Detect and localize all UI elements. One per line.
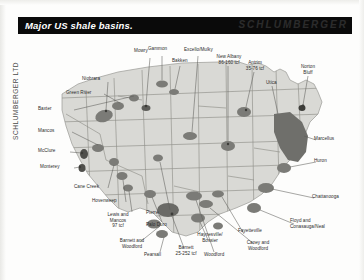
- basin-label-excello-mulky: Excello/Mulky: [184, 47, 213, 53]
- page-title: Major US shale basins.: [25, 20, 133, 31]
- basin-label-hovenweep: Hovenweep: [92, 198, 117, 204]
- basin-label-chattanooga: Chattanooga: [312, 194, 339, 200]
- basin-label-bakken: Bakken: [172, 58, 188, 64]
- us-shale-basin-map: Mowry Gammon Bakken Excello/Mulky New Al…: [22, 36, 352, 274]
- basin-label-norton-bluff: Norton Bluff: [294, 64, 322, 75]
- basin-label-mancos: Mancos: [38, 128, 54, 134]
- basin-label-mcclure: McClure: [38, 148, 55, 154]
- basin-label-antrim: Antrim 35-76 tcf: [238, 60, 272, 71]
- page-edge-left: [0, 0, 6, 280]
- basin-label-marcellus: Marcellus: [314, 136, 334, 142]
- basin-label-lewis-and-mancos: Lewis and Mancos 97 tcf: [100, 212, 136, 229]
- basin-label-baxter: Baxter: [38, 106, 52, 112]
- basin-label-utica: Utica: [266, 80, 277, 86]
- basin-label-fayetteville: Fayetteville: [238, 228, 262, 234]
- basin-label-green-river: Green River: [66, 90, 91, 96]
- basin-label-monterey: Monterey: [40, 164, 60, 170]
- page-edge-top: [0, 0, 364, 5]
- basin-label-gammon: Gammon: [148, 46, 167, 52]
- figure-title-bar: Major US shale basins. SCHLUMBERGER: [18, 17, 352, 34]
- basin-label-floyd-conasauga-neal: Floyd and Conasauga/Neal: [290, 218, 325, 229]
- scan-artifact-text: SCHLUMBERGER: [178, 19, 348, 32]
- basin-label-huron: Huron: [314, 158, 327, 164]
- basin-label-niobrara: Niobrara: [82, 76, 100, 82]
- scanned-page: Major US shale basins. SCHLUMBERGER SCHL…: [0, 0, 364, 280]
- basin-label-pearsall: Pearsall: [144, 252, 161, 258]
- source-credit: SCHLUMBERGER LTD: [12, 40, 19, 140]
- basin-label-mowry: Mowry: [134, 48, 148, 54]
- basin-label-palo-duro: Palo Duro: [146, 222, 167, 228]
- basin-label-barnett: Barnett 25-252 tcf: [166, 245, 206, 256]
- basin-label-woodford: Woodford: [204, 252, 224, 258]
- basin-label-barnett-and-woodford: Barnett and Woodford: [110, 238, 154, 249]
- basin-label-caney-and-woodford: Caney and Woodford: [238, 240, 278, 251]
- basin-label-haynesville-bossier: Haynesville/ Bossier: [190, 232, 230, 243]
- page-edge-right: [359, 0, 364, 280]
- basin-label-pierre: Pierre: [146, 210, 159, 216]
- basin-label-cane-creek: Cane Creek: [74, 184, 99, 190]
